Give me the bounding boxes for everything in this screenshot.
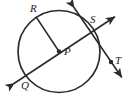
label-point-S: S bbox=[90, 14, 96, 25]
label-point-P: P bbox=[64, 46, 71, 57]
label-point-R: R bbox=[30, 3, 37, 14]
label-point-T: T bbox=[115, 55, 121, 66]
circle-geometry-diagram: R S P T Q bbox=[0, 0, 132, 100]
point-dot-T bbox=[109, 60, 113, 64]
radius-segment-RP bbox=[37, 18, 60, 52]
label-point-Q: Q bbox=[21, 80, 29, 91]
center-point-dot-P bbox=[57, 49, 61, 53]
